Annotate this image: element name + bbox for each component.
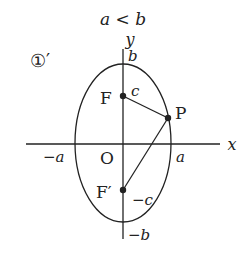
origin-label: O (100, 148, 114, 168)
focus-label: F (100, 88, 112, 108)
point-p-label: P (175, 103, 186, 123)
focus-prime-dot (120, 187, 126, 193)
tick-b: b (128, 47, 138, 65)
focus-dot (120, 93, 126, 99)
ellipse-diagram: a < b ①′ x y b −b a −a c −c O F F′ P (0, 0, 251, 261)
x-axis-label: x (227, 135, 236, 154)
point-p-dot (165, 115, 171, 121)
tick-a: a (176, 148, 185, 166)
focus-prime-label: F′ (96, 182, 112, 202)
tick-neg-a: −a (43, 148, 65, 166)
segment-f-prime-p (123, 118, 168, 190)
tick-neg-c: −c (132, 191, 154, 209)
tick-c: c (131, 82, 140, 100)
diagram-title: a < b (100, 9, 146, 29)
segment-fp (123, 96, 168, 118)
tick-neg-b: −b (128, 226, 150, 244)
figure-number: ①′ (30, 50, 50, 71)
